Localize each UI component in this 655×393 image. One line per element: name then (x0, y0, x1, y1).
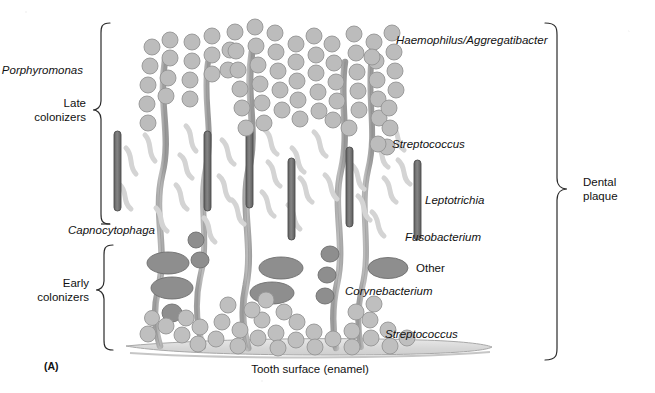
label-corynebacterium: Corynebacterium (345, 285, 433, 297)
label-fusobacterium: Fusobacterium (405, 231, 481, 243)
bracket-label-dental-line1: Dental (583, 176, 616, 188)
label-capnocytophaga: Capnocytophaga (68, 224, 155, 236)
label-leptotrichia: Leptotrichia (425, 194, 484, 206)
dental-plaque-diagram: Porphyromonas Capnocytophaga Late coloni… (0, 0, 655, 393)
label-porphyromonas: Porphyromonas (2, 64, 83, 76)
label-haemophilus-aggregatibacter: Haemophilus/Aggregatibacter (396, 34, 549, 46)
label-streptococcus-lower: Streptococcus (385, 328, 458, 340)
caption-tooth-surface: Tooth surface (enamel) (251, 363, 369, 375)
bracket-label-late-line2: colonizers (34, 111, 86, 123)
bracket-label-early-line1: Early (63, 277, 89, 289)
label-streptococcus-upper: Streptococcus (392, 138, 465, 150)
legend-glyph-coccus-upper (370, 136, 386, 152)
bracket-label-late-line1: Late (64, 97, 86, 109)
bracket-label-early-line2: colonizers (37, 291, 89, 303)
legend-glyph-other-ellipse (368, 258, 408, 279)
label-other: Other (416, 262, 445, 274)
panel-label: (A) (44, 360, 59, 372)
bracket-label-dental-line2: plaque (583, 190, 618, 202)
figure-root: Porphyromonas Capnocytophaga Late coloni… (0, 0, 655, 393)
